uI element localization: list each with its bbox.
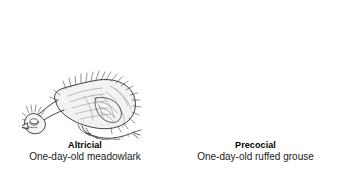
caption-title-precocial: Precocial	[170, 140, 341, 151]
bird-development-figure: Altricial One-day-old meadowlark	[0, 0, 341, 183]
caption-title-altricial: Altricial	[0, 140, 170, 151]
caption-altricial: Altricial One-day-old meadowlark	[0, 140, 170, 163]
caption-subtitle-precocial: One-day-old ruffed grouse	[170, 151, 341, 163]
panel-precocial: Precocial One-day-old ruffed grouse	[170, 0, 341, 183]
caption-subtitle-altricial: One-day-old meadowlark	[0, 151, 170, 163]
panel-altricial: Altricial One-day-old meadowlark	[0, 0, 170, 183]
caption-precocial: Precocial One-day-old ruffed grouse	[170, 140, 341, 163]
altricial-hatchling-illustration	[22, 50, 152, 140]
